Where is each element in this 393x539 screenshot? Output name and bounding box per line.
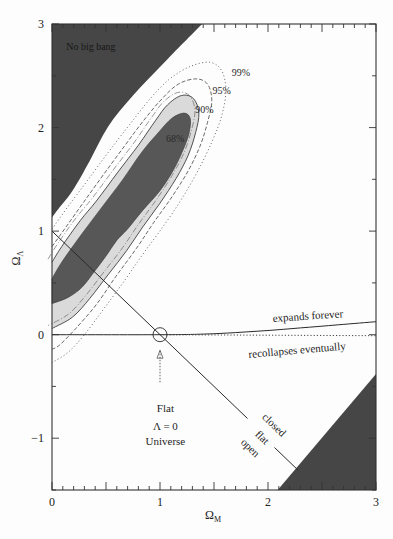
annotation-flat: Flat (157, 402, 174, 414)
annotation-universe: Universe (146, 435, 186, 447)
annotation-95: 95% (212, 85, 230, 96)
y-tick-label: 3 (38, 17, 44, 31)
x-tick-label: 1 (157, 495, 163, 509)
y-tick-label: −1 (31, 431, 44, 445)
x-axis-label-symbol: Ω (205, 508, 214, 522)
annotation-68: 68% (166, 133, 184, 144)
x-axis-label: ΩM (205, 508, 221, 524)
annotation-90: 90% (195, 104, 213, 115)
marker-layer (153, 328, 167, 383)
annotation-expands-forever: expands forever (272, 307, 344, 324)
y-tick-label: 0 (38, 328, 44, 342)
y-tick-label: 2 (38, 121, 44, 135)
x-tick-label: 3 (373, 495, 379, 509)
x-axis-label-subscript: M (214, 515, 221, 524)
y-tick-label: 1 (38, 224, 44, 238)
x-tick-label: 0 (49, 495, 55, 509)
y-axis-label-symbol: Ω (9, 256, 23, 265)
x-tick-label: 2 (265, 495, 271, 509)
annotation-0: Λ = 0 (153, 420, 178, 432)
y-axis-label: ΩΛ (9, 250, 25, 265)
y-axis-label-subscript: Λ (16, 250, 25, 256)
expansion-boundary-line (52, 322, 376, 335)
chart-plot: No big bang99%95%90%68%expands foreverre… (0, 0, 393, 539)
excluded-region-lower-right (278, 374, 376, 490)
annotation-99: 99% (232, 67, 250, 78)
annotation-no-big-bang: No big bang (66, 41, 115, 52)
chart-figure: No big bang99%95%90%68%expands foreverre… (0, 0, 393, 539)
recollapse-boundary-line (160, 335, 376, 336)
annotation-recollapses-eventually: recollapses eventually (248, 339, 347, 359)
